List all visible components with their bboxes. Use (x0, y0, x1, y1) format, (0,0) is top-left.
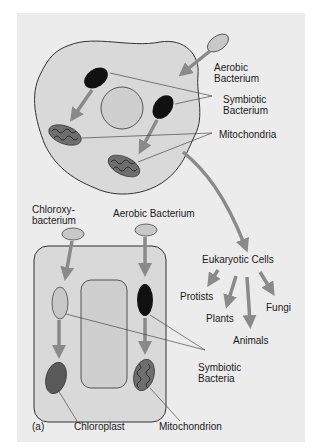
panel-label: (a) (32, 421, 44, 432)
label-chloroxybacterium: Chloroxy- bacterium (32, 204, 76, 226)
label-aerobic-bacterium-plant: Aerobic Bacterium (113, 208, 195, 219)
label-chloroplast: Chloroplast (74, 421, 125, 432)
label-symbiotic-bacterium: Symbiotic Bacterium (223, 94, 268, 116)
label-animals: Animals (233, 335, 269, 346)
label-protists: Protists (180, 291, 213, 302)
symbiotic-bacterium-icon (52, 287, 68, 319)
label-mitochondria: Mitochondria (219, 129, 276, 140)
label-eukaryotic-cells: Eukaryotic Cells (202, 254, 274, 265)
lineage-arrow-icon (183, 152, 245, 246)
label-mitochondrion: Mitochondrion (159, 421, 222, 432)
branch-arrow-icon (260, 272, 271, 290)
label-fungi: Fungi (266, 302, 291, 313)
branch-arrow-icon (211, 270, 218, 281)
plant-vacuole (81, 280, 127, 388)
branch-arrow-icon (228, 276, 236, 302)
chloroxybacterium-icon (62, 228, 84, 240)
label-plants: Plants (206, 313, 234, 324)
label-symbiotic-bacteria: Symbiotic Bacteria (198, 362, 241, 384)
branch-arrow-icon (247, 277, 250, 322)
symbiotic-bacterium-icon (137, 284, 153, 316)
label-aerobic-bacterium: Aerobic Bacterium (214, 62, 259, 84)
animal-nucleus (101, 87, 143, 129)
aerobic-bacterium-icon (135, 224, 157, 236)
